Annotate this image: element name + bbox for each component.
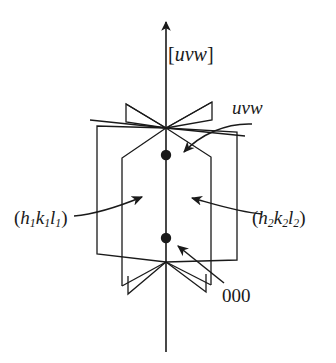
zone-axis-indices: uvw — [175, 43, 207, 65]
plane-right-h: h — [258, 207, 268, 228]
plane-h2k2l2 — [166, 102, 237, 292]
front-face-left — [122, 128, 166, 286]
plane-left-k: k — [36, 207, 44, 228]
lattice-point-uvw — [161, 150, 171, 160]
zone-axis-bracket-close: ] — [207, 43, 214, 65]
front-face-right-bottom — [166, 262, 211, 285]
plane-right-k: k — [274, 207, 282, 228]
label-lattice-point-uvw: uvw — [232, 98, 263, 117]
pointer-arrow-h1k1l1 — [74, 197, 142, 216]
lattice-point-origin — [161, 233, 171, 243]
plane-h1k1l1-left-wing — [97, 126, 166, 262]
label-plane-h1k1l1: (h1k1l1) — [14, 208, 68, 229]
plane-left-h: h — [20, 207, 30, 228]
plane-h1k1l1 — [97, 104, 166, 294]
plane-h1k1l1-lower-flap — [128, 262, 166, 294]
zone-axis-figure: [uvw] uvw (h1k1l1) (h2k2l2) 000 — [0, 0, 336, 363]
label-plane-h2k2l2: (h2k2l2) — [252, 208, 306, 229]
front-face-left-bottom — [122, 262, 166, 286]
label-origin: 000 — [222, 286, 251, 305]
plane-h2k2l2-lower-flap — [166, 262, 206, 292]
plane-left-paren-close: ) — [61, 207, 67, 228]
pointer-arrow-uvw — [184, 124, 252, 152]
zone-axis-bracket-open: [ — [168, 43, 175, 65]
plane-right-paren-close: ) — [299, 207, 305, 228]
label-zone-axis: [uvw] — [168, 44, 214, 64]
pointer-arrow-000 — [178, 246, 224, 283]
plane-h2k2l2-right-wing — [166, 128, 237, 262]
